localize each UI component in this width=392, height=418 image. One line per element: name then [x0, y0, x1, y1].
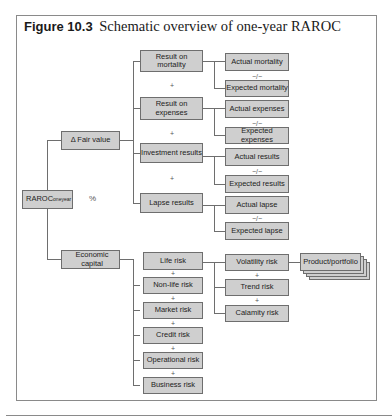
figure-title: Figure 10.3 Schematic overview of one-ye…: [24, 18, 341, 35]
figure-label: Figure 10.3: [24, 19, 93, 34]
credit-risk-box: Credit risk: [143, 327, 203, 344]
investment-results-box: Investment results: [140, 143, 203, 163]
plus-operator: +: [169, 320, 177, 327]
business-risk-box: Business risk: [143, 377, 203, 394]
connector: [133, 203, 140, 204]
expected-results-box: Expected results: [225, 175, 289, 193]
trend-risk-box: Trend risk: [225, 279, 289, 296]
plus-operator: +: [253, 297, 261, 304]
market-risk-box: Market risk: [143, 302, 203, 319]
product-portfolio-box: Product/portfolio: [300, 253, 361, 271]
connector: [214, 156, 215, 184]
connector: [214, 135, 225, 136]
plus-operator: +: [169, 345, 177, 352]
operational-risk-box: Operational risk: [143, 352, 203, 369]
raroc-subscript: oneyear: [53, 195, 71, 204]
minus-operator: −/−: [247, 73, 267, 80]
actual-mortality-box: Actual mortality: [225, 53, 289, 71]
result-on-mortality-box: Result on mortality: [140, 50, 203, 72]
connector: [133, 153, 140, 154]
plus-operator: +: [169, 370, 177, 377]
connector: [133, 335, 140, 336]
actual-results-box: Actual results: [225, 148, 289, 166]
connector: [133, 285, 140, 286]
figure-title-text: Schematic overview of one-year RAROC: [99, 18, 341, 34]
expected-lapse-box: Expected lapse: [225, 222, 289, 240]
result-on-expenses-box: Result on expenses: [140, 97, 203, 120]
connector: [214, 313, 225, 314]
plus-operator: +: [168, 175, 176, 182]
connector: [214, 205, 215, 231]
connector: [133, 360, 140, 361]
actual-lapse-box: Actual lapse: [225, 196, 289, 214]
page-rule: [6, 415, 392, 416]
plus-operator: +: [169, 270, 177, 277]
connector: [133, 108, 140, 109]
connector: [47, 259, 61, 260]
connector: [214, 61, 215, 89]
connector: [133, 259, 134, 386]
plus-operator: +: [169, 295, 177, 302]
connector: [214, 287, 225, 288]
volatility-risk-box: Volatility risk: [225, 254, 289, 271]
connector: [214, 231, 225, 232]
plus-operator: +: [168, 82, 176, 89]
minus-operator: −/−: [247, 215, 267, 222]
connector: [133, 385, 140, 386]
actual-expenses-box: Actual expenses: [225, 100, 289, 118]
plus-operator: +: [168, 130, 176, 137]
connector: [47, 209, 48, 259]
raroc-box: RAROConeyear: [22, 190, 73, 209]
expected-mortality-box: Expected mortality: [225, 80, 289, 97]
connector: [47, 140, 48, 190]
connector: [133, 61, 140, 62]
connector: [133, 61, 134, 204]
raroc-label: RAROC: [26, 195, 53, 204]
connector: [133, 310, 140, 311]
divide-operator: %: [89, 194, 96, 203]
non-life-risk-box: Non-life risk: [143, 277, 203, 294]
minus-operator: −/−: [247, 168, 267, 175]
fair-value-box: Δ Fair value: [61, 131, 120, 150]
connector: [214, 184, 225, 185]
economic-capital-box: Economic capital: [61, 250, 120, 269]
calamity-risk-box: Calamity risk: [225, 305, 289, 322]
connector: [214, 108, 215, 136]
expected-expenses-box: Expected expenses: [225, 127, 289, 144]
connector: [120, 259, 133, 260]
life-risk-box: Life risk: [143, 252, 203, 270]
lapse-results-box: Lapse results: [140, 193, 203, 213]
connector: [47, 140, 61, 141]
connector: [214, 88, 225, 89]
connector: [120, 140, 133, 141]
connector: [289, 262, 300, 263]
plus-operator: +: [253, 272, 261, 279]
